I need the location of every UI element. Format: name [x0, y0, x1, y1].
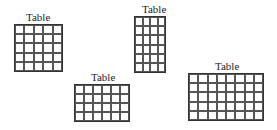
table-cell [245, 111, 254, 120]
table-cell [143, 54, 151, 63]
table-cell [93, 103, 102, 112]
table-cell [15, 25, 24, 34]
table-cell [34, 62, 43, 71]
table-cell [158, 63, 166, 72]
table-grid [188, 73, 264, 121]
table-cell [198, 83, 207, 92]
table-cell [143, 17, 151, 26]
table-cell [217, 102, 226, 111]
table-cell [235, 74, 244, 83]
table-cell [217, 83, 226, 92]
table-cell [43, 53, 52, 62]
table-cell [158, 54, 166, 63]
table-cell [120, 112, 129, 121]
table-cell [198, 92, 207, 101]
table-cell [226, 111, 235, 120]
table-cell [143, 35, 151, 44]
table-cell [53, 62, 62, 71]
table-cell [53, 53, 62, 62]
table-cell [150, 45, 158, 54]
table-cell [254, 83, 263, 92]
table-cell [198, 74, 207, 83]
table-cell [24, 62, 33, 71]
table-cell [245, 83, 254, 92]
table-cell [111, 94, 120, 103]
table-cell [189, 111, 198, 120]
table-cell [143, 45, 151, 54]
table-cell [245, 74, 254, 83]
table-cell [158, 45, 166, 54]
table-cell [102, 94, 111, 103]
table-cell [143, 63, 151, 72]
table-cell [34, 25, 43, 34]
table-cell [208, 92, 217, 101]
table-cell [208, 111, 217, 120]
table-cell [75, 85, 84, 94]
table-cell [15, 34, 24, 43]
table-cell [217, 74, 226, 83]
table-cell [43, 62, 52, 71]
table-cell [84, 94, 93, 103]
table-cell [53, 34, 62, 43]
table-cell [226, 74, 235, 83]
table-grid [14, 24, 63, 72]
table-cell [189, 102, 198, 111]
table-cell [189, 92, 198, 101]
table-cell [84, 85, 93, 94]
table-cell [43, 34, 52, 43]
table-cell [135, 45, 143, 54]
table-cell [254, 74, 263, 83]
table-cell [15, 43, 24, 52]
table-label: Table [215, 61, 239, 72]
table-cell [84, 103, 93, 112]
table-cell [15, 62, 24, 71]
table-cell [120, 85, 129, 94]
table-cell [150, 26, 158, 35]
table-cell [254, 92, 263, 101]
table-cell [217, 92, 226, 101]
table-cell [235, 83, 244, 92]
table-cell [208, 102, 217, 111]
table-cell [15, 53, 24, 62]
table-cell [158, 26, 166, 35]
table-cell [189, 83, 198, 92]
table-cell [135, 35, 143, 44]
table-cell [226, 83, 235, 92]
table-cell [150, 54, 158, 63]
table-cell [120, 94, 129, 103]
table-cell [34, 34, 43, 43]
table-cell [93, 85, 102, 94]
table-cell [24, 43, 33, 52]
table-cell [254, 102, 263, 111]
table-cell [158, 17, 166, 26]
table-cell [254, 111, 263, 120]
table-cell [135, 54, 143, 63]
table-cell [24, 53, 33, 62]
table-cell [111, 103, 120, 112]
table-grid [134, 16, 166, 73]
table-cell [189, 74, 198, 83]
table-cell [24, 34, 33, 43]
table-cell [34, 53, 43, 62]
table-cell [198, 111, 207, 120]
table-cell [143, 26, 151, 35]
table-cell [245, 102, 254, 111]
table-cell [102, 112, 111, 121]
table-cell [217, 111, 226, 120]
table-cell [135, 17, 143, 26]
table-cell [43, 43, 52, 52]
table-grid [74, 84, 130, 122]
table-cell [93, 94, 102, 103]
table-cell [84, 112, 93, 121]
table-cell [43, 25, 52, 34]
table-cell [75, 103, 84, 112]
table-cell [235, 102, 244, 111]
table-cell [208, 74, 217, 83]
table-label: Table [142, 4, 166, 15]
table-cell [135, 63, 143, 72]
table-cell [53, 43, 62, 52]
table-cell [75, 94, 84, 103]
table-cell [102, 85, 111, 94]
table-cell [235, 111, 244, 120]
table-cell [135, 26, 143, 35]
